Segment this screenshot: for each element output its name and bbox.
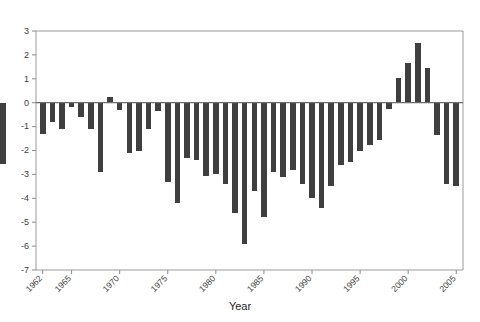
y-tick-label: -2 <box>21 145 29 155</box>
x-tick-label: 1962 <box>24 273 45 294</box>
bar <box>434 103 440 135</box>
y-tick-label: 1 <box>24 74 29 84</box>
bar <box>242 103 248 244</box>
bar <box>78 103 84 117</box>
bar <box>290 103 296 170</box>
y-tick-label: -3 <box>21 169 29 179</box>
x-tick-label: 1985 <box>245 273 266 294</box>
bar <box>98 103 104 172</box>
bar <box>309 103 315 199</box>
bar <box>319 103 325 208</box>
x-tick-label: 1980 <box>197 273 218 294</box>
bar <box>405 63 411 102</box>
bar <box>386 103 392 109</box>
x-tick-label: 1990 <box>293 273 314 294</box>
bar <box>232 103 238 213</box>
bar <box>59 103 65 129</box>
bar <box>280 103 286 177</box>
bar <box>357 103 363 151</box>
bar <box>453 103 459 187</box>
bar <box>271 103 277 172</box>
bar <box>127 103 133 153</box>
bar <box>348 103 354 163</box>
bar <box>252 103 258 191</box>
bar <box>165 103 171 182</box>
bar-series <box>0 43 459 244</box>
x-tick-label: 1965 <box>53 273 74 294</box>
bar <box>88 103 94 129</box>
bar <box>155 103 161 111</box>
bar <box>136 103 142 151</box>
bar <box>367 103 373 145</box>
y-tick-label: 3 <box>24 26 29 36</box>
bar <box>194 103 200 160</box>
bar <box>117 103 123 110</box>
y-tick-label: 2 <box>24 50 29 60</box>
bar <box>328 103 334 187</box>
bar <box>223 103 229 184</box>
bar <box>425 68 431 103</box>
x-axis-title: Year <box>229 300 252 312</box>
y-tick-label: -5 <box>21 217 29 227</box>
y-tick-label: -7 <box>21 265 29 275</box>
y-tick-label: -6 <box>21 241 29 251</box>
y-tick-label: 0 <box>24 98 29 108</box>
y-tick-label: -4 <box>21 193 29 203</box>
bar <box>0 103 6 164</box>
bar <box>203 103 209 176</box>
bar <box>213 103 219 175</box>
bar <box>146 103 152 129</box>
y-axis-ticks: 3210-1-2-3-4-5-6-7 <box>21 26 36 275</box>
x-axis-ticks: 1962196519701975198019851990199520002005 <box>24 270 458 294</box>
bar <box>175 103 181 203</box>
x-tick-label: 1975 <box>149 273 170 294</box>
x-tick-label: 1995 <box>341 273 362 294</box>
bar <box>261 103 267 218</box>
bar <box>107 97 113 103</box>
bar <box>377 103 383 140</box>
bar <box>396 78 402 103</box>
bar <box>444 103 450 184</box>
chart-canvas: 3210-1-2-3-4-5-6-7 196219651970197519801… <box>0 0 480 322</box>
x-tick-label: 1970 <box>101 273 122 294</box>
bar <box>300 103 306 184</box>
bar <box>40 103 46 134</box>
bar <box>69 103 75 108</box>
bar-chart: 3210-1-2-3-4-5-6-7 196219651970197519801… <box>0 0 480 322</box>
bar <box>338 103 344 165</box>
x-tick-label: 2005 <box>437 273 458 294</box>
bar <box>50 103 56 122</box>
bar <box>184 103 190 158</box>
y-tick-label: -1 <box>21 121 29 131</box>
x-tick-label: 2000 <box>389 273 410 294</box>
bar <box>415 43 421 103</box>
